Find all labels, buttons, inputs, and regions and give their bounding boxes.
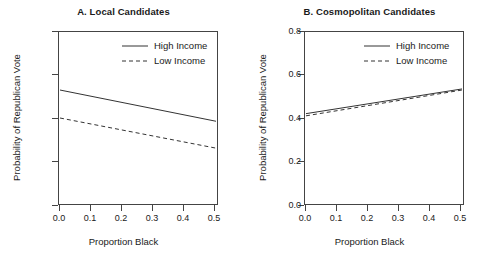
y-label-b-4: 0.8	[271, 27, 301, 36]
dashed-line-key-icon	[122, 56, 148, 66]
series-line-high-income-a	[60, 90, 216, 121]
legend-label-low-income-a: Low Income	[154, 56, 205, 66]
y-label-b-0: 0.0	[271, 201, 301, 210]
x-tick-b-0	[305, 205, 306, 211]
x-tick-b-1	[336, 205, 337, 211]
x-label-a-5: 0.5	[199, 214, 229, 223]
legend-label-high-income-a: High Income	[154, 41, 207, 51]
x-tick-b-4	[429, 205, 430, 211]
legend-b: High Income Low Income	[364, 38, 456, 68]
legend-a: High Income Low Income	[122, 38, 214, 68]
legend-item-low-income-b: Low Income	[364, 53, 456, 68]
x-label-b-2: 0.2	[352, 214, 382, 223]
x-label-b-1: 0.1	[321, 214, 351, 223]
x-tick-b-3	[398, 205, 399, 211]
y-axis-title-b: Probability of Republican Vote	[257, 28, 268, 208]
dashed-line-key-icon	[364, 56, 390, 66]
legend-label-high-income-b: High Income	[396, 41, 449, 51]
legend-label-low-income-b: Low Income	[396, 56, 447, 66]
x-label-a-4: 0.4	[168, 214, 198, 223]
x-tick-a-3	[152, 205, 153, 211]
solid-line-key-icon	[122, 41, 148, 51]
panel-cosmopolitan-candidates: B. Cosmopolitan Candidates 0.0 0.2 0.4 0…	[246, 0, 493, 258]
y-label-b-1: 0.2	[271, 157, 301, 166]
y-label-b-3: 0.6	[271, 70, 301, 79]
figure-canvas: A. Local Candidates 0.0 0.2 0.4 0.6 0.8 …	[0, 0, 493, 258]
panel-local-candidates: A. Local Candidates 0.0 0.2 0.4 0.6 0.8 …	[0, 0, 247, 258]
x-label-b-3: 0.3	[383, 214, 413, 223]
panel-a-title: A. Local Candidates	[0, 6, 247, 17]
y-tick-a-0	[52, 205, 58, 206]
x-axis-title-b: Proportion Black	[246, 236, 493, 247]
x-label-b-5: 0.5	[445, 214, 475, 223]
x-label-a-2: 0.2	[106, 214, 136, 223]
panel-b-title: B. Cosmopolitan Candidates	[246, 6, 493, 17]
legend-item-high-income-a: High Income	[122, 38, 214, 53]
x-tick-a-2	[121, 205, 122, 211]
series-line-high-income-b	[306, 89, 462, 114]
legend-item-high-income-b: High Income	[364, 38, 456, 53]
x-tick-b-5	[460, 205, 461, 211]
x-label-a-1: 0.1	[75, 214, 105, 223]
y-label-b-2: 0.4	[271, 114, 301, 123]
solid-line-key-icon	[364, 41, 390, 51]
x-tick-b-2	[367, 205, 368, 211]
legend-item-low-income-a: Low Income	[122, 53, 214, 68]
y-axis-title-a: Probability of Republican Vote	[11, 28, 22, 208]
x-tick-a-5	[214, 205, 215, 211]
series-line-low-income-b	[306, 90, 462, 116]
x-label-b-4: 0.4	[414, 214, 444, 223]
x-axis-title-a: Proportion Black	[0, 236, 247, 247]
x-tick-a-4	[183, 205, 184, 211]
x-label-a-3: 0.3	[137, 214, 167, 223]
x-tick-a-1	[90, 205, 91, 211]
x-label-b-0: 0.0	[290, 214, 320, 223]
x-label-a-0: 0.0	[44, 214, 74, 223]
x-tick-a-0	[59, 205, 60, 211]
series-line-low-income-a	[60, 118, 216, 148]
